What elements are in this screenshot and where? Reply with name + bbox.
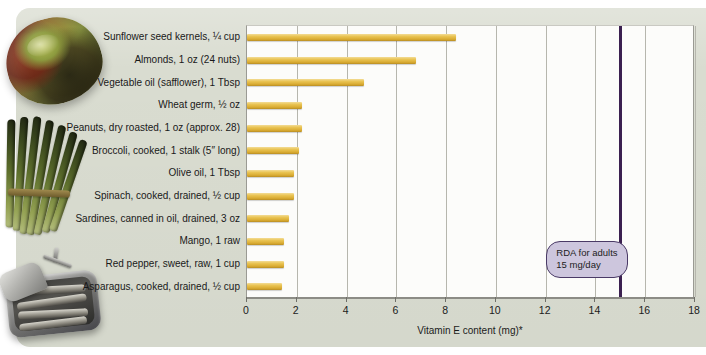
bar bbox=[247, 283, 282, 290]
category-label-column: Sunflower seed kernels, ¼ cupAlmonds, 1 … bbox=[0, 25, 246, 297]
tick-4 bbox=[346, 297, 347, 302]
tick-label-4: 4 bbox=[343, 304, 349, 316]
tick-18 bbox=[694, 297, 695, 302]
tick-label-10: 10 bbox=[489, 304, 501, 316]
bar bbox=[247, 57, 416, 64]
bar bbox=[247, 79, 364, 86]
category-label: Sunflower seed kernels, ¼ cup bbox=[10, 31, 246, 42]
bar-row bbox=[247, 50, 416, 70]
category-label: Red pepper, sweet, raw, 1 cup bbox=[10, 258, 246, 269]
bar-row bbox=[247, 209, 289, 229]
bar-row bbox=[247, 27, 456, 47]
tick-10 bbox=[495, 297, 496, 302]
bar bbox=[247, 125, 302, 132]
bar bbox=[247, 102, 302, 109]
vitamin-e-chart-figure: Sunflower seed kernels, ¼ cupAlmonds, 1 … bbox=[0, 0, 706, 355]
tick-8 bbox=[445, 297, 446, 302]
bar-row bbox=[247, 163, 294, 183]
category-label: Spinach, cooked, drained, ½ cup bbox=[10, 190, 246, 201]
category-label: Vegetable oil (safflower), 1 Tbsp bbox=[10, 76, 246, 87]
tick-label-2: 2 bbox=[293, 304, 299, 316]
bar-row bbox=[247, 141, 299, 161]
gridline-18 bbox=[695, 26, 696, 297]
bar bbox=[247, 215, 289, 222]
category-label: Wheat germ, ½ oz bbox=[10, 99, 246, 110]
plot-area: RDA for adults 15 mg/day bbox=[246, 25, 694, 297]
tick-label-8: 8 bbox=[442, 304, 448, 316]
bar-row bbox=[247, 231, 284, 251]
bar-row bbox=[247, 73, 364, 93]
tick-0 bbox=[246, 297, 247, 302]
x-axis-line bbox=[246, 297, 694, 299]
bar bbox=[247, 147, 299, 154]
bar bbox=[247, 34, 456, 41]
tick-6 bbox=[395, 297, 396, 302]
tick-label-18: 18 bbox=[688, 304, 700, 316]
tick-label-12: 12 bbox=[539, 304, 551, 316]
bar bbox=[247, 261, 284, 268]
rda-callout-line1: RDA for adults bbox=[556, 247, 617, 259]
tick-label-14: 14 bbox=[589, 304, 601, 316]
rda-callout: RDA for adults 15 mg/day bbox=[546, 241, 627, 278]
bar bbox=[247, 170, 294, 177]
bar-row bbox=[247, 254, 284, 274]
tick-label-0: 0 bbox=[243, 304, 249, 316]
tick-2 bbox=[296, 297, 297, 302]
tick-label-6: 6 bbox=[392, 304, 398, 316]
tick-label-16: 16 bbox=[638, 304, 650, 316]
rda-callout-line2: 15 mg/day bbox=[556, 259, 617, 271]
tick-12 bbox=[545, 297, 546, 302]
category-label: Peanuts, dry roasted, 1 oz (approx. 28) bbox=[10, 122, 246, 133]
tick-14 bbox=[594, 297, 595, 302]
bar-row bbox=[247, 186, 294, 206]
bar-row bbox=[247, 95, 302, 115]
bar-row bbox=[247, 118, 302, 138]
category-label: Mango, 1 raw bbox=[10, 235, 246, 246]
category-label: Sardines, canned in oil, drained, 3 oz bbox=[10, 212, 246, 223]
category-label: Asparagus, cooked, drained, ½ cup bbox=[10, 280, 246, 291]
tick-16 bbox=[644, 297, 645, 302]
bar bbox=[247, 193, 294, 200]
category-label: Almonds, 1 oz (24 nuts) bbox=[10, 54, 246, 65]
category-label: Olive oil, 1 Tbsp bbox=[10, 167, 246, 178]
category-label: Broccoli, cooked, 1 stalk (5″ long) bbox=[10, 144, 246, 155]
bar bbox=[247, 238, 284, 245]
bar-row bbox=[247, 277, 282, 297]
x-axis-title: Vitamin E content (mg)* bbox=[246, 325, 694, 336]
